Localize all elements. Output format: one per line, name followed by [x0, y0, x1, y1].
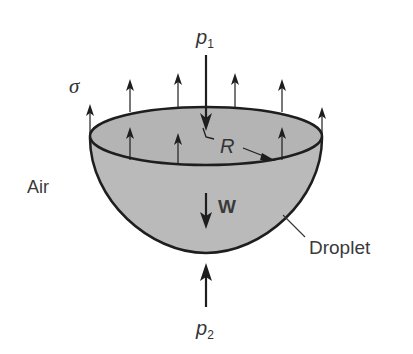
label-p1: p1 [195, 26, 214, 51]
p2-arrow [200, 263, 212, 307]
label-sigma: σ [69, 74, 81, 98]
droplet-force-diagram: p1 σ R Air W Droplet p2 [0, 0, 413, 354]
label-air: Air [27, 177, 49, 197]
label-p2: p2 [195, 317, 214, 342]
label-droplet: Droplet [309, 237, 371, 258]
droplet-leader-line [283, 215, 305, 237]
label-weight: W [218, 196, 236, 217]
label-radius: R [220, 135, 234, 157]
